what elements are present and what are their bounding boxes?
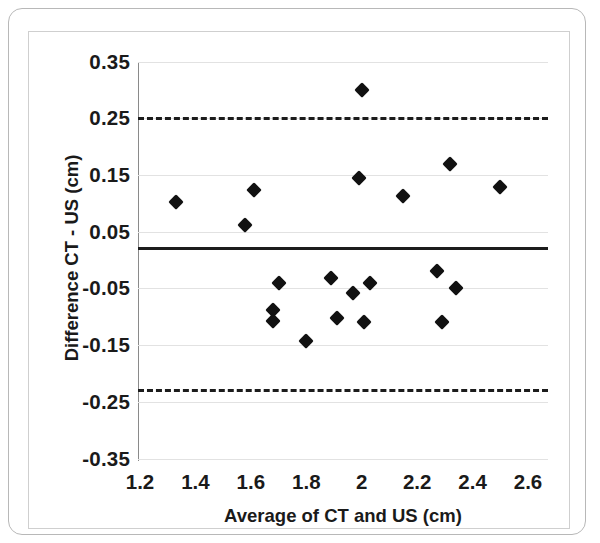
data-point [168, 194, 184, 210]
x-tick-label: 1.2 [126, 470, 155, 494]
gridline-y-5 [138, 345, 548, 346]
bland-altman-scatter-plot: 0.350.250.150.05-0.05-0.15-0.25-0.35 1.2… [0, 0, 600, 543]
x-tick-label: 1.8 [292, 470, 321, 494]
data-point [323, 270, 339, 286]
data-point [265, 313, 281, 329]
data-point [429, 264, 445, 280]
data-point [357, 315, 373, 331]
data-point [329, 311, 345, 327]
data-point [396, 189, 412, 205]
x-tick-label: 1.6 [237, 470, 266, 494]
lower-limit-of-agreement [138, 389, 548, 392]
data-point [238, 217, 254, 233]
data-point [448, 281, 464, 297]
data-point [434, 315, 450, 331]
y-axis-title: Difference CT - US (cm) [61, 108, 83, 408]
gridline-y-0 [138, 62, 548, 63]
x-tick-label: 1.4 [181, 470, 210, 494]
x-tick-label: 2 [356, 470, 367, 494]
gridline-y-4 [138, 288, 548, 289]
x-tick-label: 2.4 [458, 470, 487, 494]
gridline-y-6 [138, 402, 548, 403]
y-tick-label: -0.35 [56, 447, 130, 471]
data-point [443, 156, 459, 172]
upper-limit-of-agreement [138, 117, 548, 120]
x-axis-title: Average of CT and US (cm) [138, 505, 548, 527]
data-point [493, 180, 509, 196]
x-tick-label: 2.2 [403, 470, 432, 494]
y-tick-label: 0.35 [56, 50, 130, 74]
x-tick-label: 2.6 [514, 470, 543, 494]
gridline-y-2 [138, 175, 548, 176]
gridline-y-3 [138, 232, 548, 233]
mean-difference [138, 247, 548, 250]
data-point [354, 83, 370, 99]
data-point [351, 170, 367, 186]
gridline-y-7 [138, 459, 548, 460]
data-point [246, 182, 262, 198]
